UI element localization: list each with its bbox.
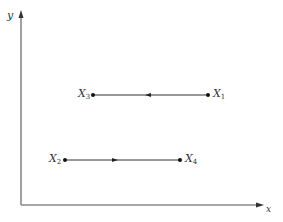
point-x2 <box>63 158 67 162</box>
label-x2: X2 <box>49 153 61 166</box>
diagram-canvas: y x X3 X1 X2 X4 <box>0 0 283 222</box>
label-x1: X1 <box>213 88 225 101</box>
diagram-svg <box>0 0 283 222</box>
x-axis-arrowhead-icon <box>256 203 264 208</box>
arrow-right-icon <box>112 158 118 162</box>
arrow-left-icon <box>145 93 151 97</box>
x-axis-label: x <box>266 205 271 214</box>
point-x4 <box>178 158 182 162</box>
label-x4: X4 <box>185 153 197 166</box>
point-x3 <box>91 93 95 97</box>
y-axis-arrowhead-icon <box>19 10 24 18</box>
label-x3: X3 <box>78 88 90 101</box>
y-axis-label: y <box>7 10 13 21</box>
point-x1 <box>206 93 210 97</box>
